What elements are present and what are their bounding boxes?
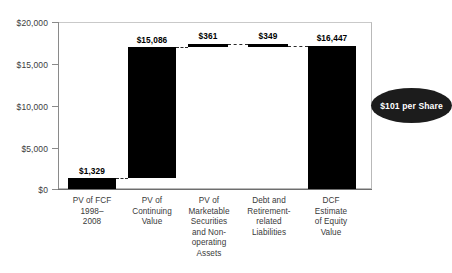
x-category-label-pv-of-continuing-value: PV of Continuing Value (120, 196, 184, 228)
y-tick-label-15000: $15,000 (0, 60, 48, 70)
y-tick-15000 (52, 64, 58, 65)
y-tick-label-20000: $20,000 (0, 18, 48, 28)
connector-3 (228, 44, 248, 45)
y-tick-label-5000: $5,000 (0, 144, 48, 154)
bar-pv-of-continuing-value (128, 47, 176, 178)
connector-4 (288, 46, 308, 47)
bar-pv-of-fcf (68, 178, 116, 189)
y-tick-5000 (52, 148, 58, 149)
bar-pv-of-marketable-securities (188, 44, 228, 47)
connector-1 (116, 178, 128, 179)
y-tick-20000 (52, 22, 58, 23)
per-share-callout-label: $101 per Share (380, 101, 443, 111)
value-label-pv-of-fcf: $1,329 (62, 166, 122, 176)
y-tick-label-10000: $10,000 (0, 102, 48, 112)
value-label-pv-of-continuing-value: $15,086 (122, 35, 182, 45)
per-share-callout: $101 per Share (371, 88, 452, 123)
x-category-label-debt-and-retirement-liabilities: Debt and Retirement- related Liabilities (238, 196, 300, 238)
y-axis-line (58, 22, 59, 190)
bar-dcf-estimate-of-equity-value (308, 46, 356, 189)
value-label-dcf-estimate-of-equity-value: $16,447 (300, 33, 364, 43)
x-category-label-dcf-estimate-of-equity-value: DCF Estimate of Equity Value (300, 196, 362, 238)
value-label-pv-of-marketable-securities: $361 (178, 31, 238, 41)
x-category-label-pv-of-marketable-securities: PV of Marketable Securities and Non- ope… (178, 196, 240, 260)
x-category-label-pv-of-fcf: PV of FCF 1998– 2008 (58, 196, 126, 228)
connector-2 (176, 47, 188, 48)
y-tick-label-0: $0 (0, 185, 48, 195)
y-tick-10000 (52, 106, 58, 107)
y-tick-0 (52, 189, 58, 190)
value-label-debt-and-retirement-liabilities: $349 (238, 31, 298, 41)
waterfall-chart: $20,000 $15,000 $10,000 $5,000 $0 $1,329… (0, 0, 452, 273)
x-axis-baseline (58, 189, 372, 190)
bar-debt-and-retirement-liabilities (248, 44, 288, 47)
